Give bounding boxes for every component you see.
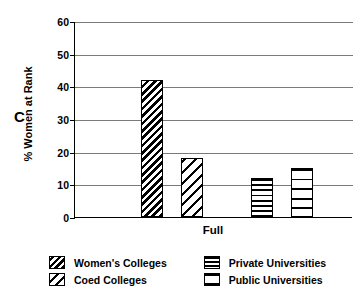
y-axis-tick-mark [70,120,75,121]
legend-swatch-sparse-horizontal-icon [204,273,220,286]
legend-item-public-universities[interactable]: Public Universities [204,273,349,286]
gridline [75,153,353,154]
bar [251,178,273,217]
legend-item-womens-colleges[interactable]: Women's Colleges [49,256,190,269]
y-axis-tick-mark [70,153,75,154]
gridline [75,120,353,121]
y-axis-tick-mark [70,185,75,186]
x-axis-category-label: Full [74,224,352,236]
y-axis-tick-mark [70,218,75,219]
legend-item-private-universities[interactable]: Private Universities [204,256,349,269]
legend-label: Coed Colleges [74,274,147,286]
legend-label: Private Universities [229,257,326,269]
plot-area: 0102030405060 [74,22,352,218]
chart-legend: Women's Colleges Coed Colleges Private U… [49,256,349,286]
y-axis-tick-mark [70,22,75,23]
legend-item-coed-colleges[interactable]: Coed Colleges [49,273,190,286]
y-axis-tick-mark [70,87,75,88]
legend-column-left: Women's Colleges Coed Colleges [49,256,190,286]
legend-swatch-dense-horizontal-icon [204,256,220,269]
legend-swatch-dense-diagonal-icon [49,256,65,269]
bar [181,158,203,217]
y-axis-title: % Women at Rank [22,34,34,194]
bar [291,168,313,217]
y-axis-tick-label: 50 [57,49,69,61]
legend-swatch-sparse-diagonal-icon [49,273,65,286]
gridline [75,87,353,88]
y-axis-tick-label: 20 [57,147,69,159]
legend-label: Public Universities [229,274,323,286]
legend-column-right: Private Universities Public Universities [204,256,349,286]
gridline [75,22,353,23]
y-axis-tick-mark [70,55,75,56]
y-axis-tick-label: 0 [63,212,69,224]
gridline [75,55,353,56]
legend-label: Women's Colleges [74,257,167,269]
y-axis-tick-label: 40 [57,81,69,93]
bar [141,80,163,217]
y-axis-tick-label: 60 [57,16,69,28]
y-axis-tick-label: 30 [57,114,69,126]
y-axis-tick-label: 10 [57,179,69,191]
